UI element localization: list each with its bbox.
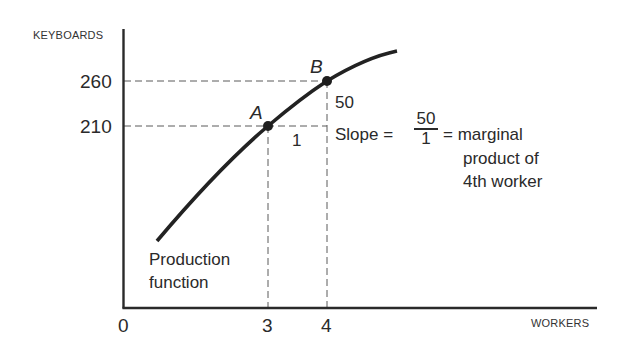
x-axis-title: WORKERS [531,318,589,329]
point-b-marker [322,76,332,86]
x-tick-3: 3 [262,316,273,335]
y-tick-210: 210 [80,117,112,136]
slope-text-line2: product of [463,150,539,167]
slope-text-line3: 4th worker [463,173,542,190]
y-tick-260: 260 [80,72,112,91]
production-function-curve [157,51,397,241]
slope-text-line1: = marginal [443,126,523,143]
slope-prefix: Slope = [335,126,393,143]
point-b-label: B [310,57,323,76]
y-axis-title: KEYBOARDS [33,30,103,41]
curve-label-line2: function [149,274,209,291]
x-tick-0: 0 [118,316,129,335]
production-function-chart: KEYBOARDS WORKERS 260 210 0 3 4 A B 50 1… [0,0,630,356]
slope-fraction: 50 1 [413,110,439,148]
slope-denominator: 1 [413,130,439,148]
point-a-label: A [250,103,263,122]
run-label: 1 [292,132,301,149]
rise-label: 50 [335,94,354,111]
x-tick-4: 4 [321,316,332,335]
slope-numerator: 50 [413,110,439,128]
point-a-marker [263,121,273,131]
curve-label-line1: Production [149,251,230,268]
